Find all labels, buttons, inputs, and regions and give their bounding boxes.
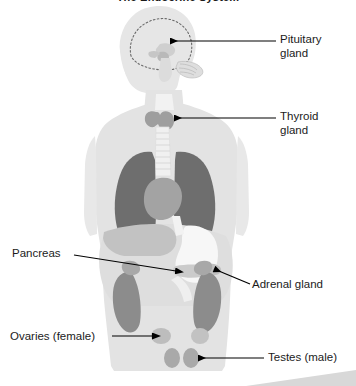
label-ovaries-female: Ovaries (female) <box>10 330 95 344</box>
ovary-left <box>151 328 171 344</box>
testis-right <box>183 348 199 368</box>
left-arm-stub <box>84 136 97 236</box>
larynx <box>155 94 174 110</box>
corner-wedge <box>246 370 356 386</box>
label-adrenal-gland: Adrenal gland <box>252 278 323 292</box>
testis-left <box>164 348 180 368</box>
label-thyroid-gland: Thyroid gland <box>280 110 318 137</box>
ovary-right <box>191 328 209 344</box>
label-testes-male: Testes (male) <box>268 351 337 365</box>
diagram-page: The Endocrine System <box>0 0 356 386</box>
label-pancreas: Pancreas <box>12 247 61 261</box>
right-arm-stub <box>236 136 249 236</box>
label-pituitary-gland: Pituitary gland <box>280 33 322 60</box>
brainstem <box>159 58 172 82</box>
